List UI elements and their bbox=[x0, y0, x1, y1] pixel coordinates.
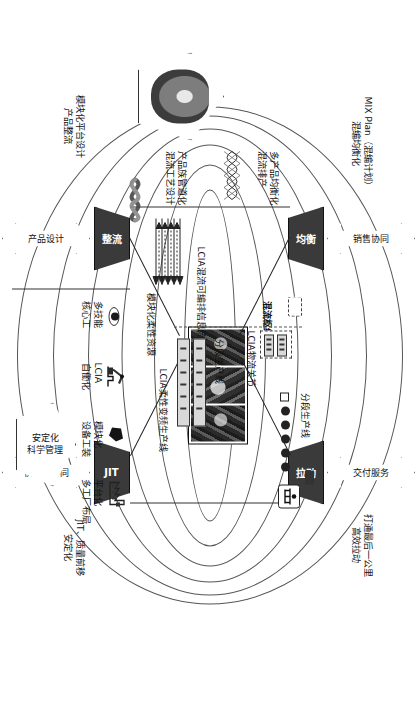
arrow-product-label: 产品设计 bbox=[28, 232, 64, 245]
joint-bar-1 bbox=[277, 334, 287, 356]
resource-item-1-line1: 多技能 bbox=[92, 300, 104, 327]
label-segmented-line-top: 分段生产线 bbox=[299, 392, 310, 437]
node-zhengliu-label: 整流 bbox=[102, 231, 122, 246]
kanban-card-icon bbox=[305, 470, 314, 484]
factory-icon bbox=[108, 480, 128, 508]
caption-mix-plan-line1: MIX Plan（混编计划） bbox=[362, 96, 374, 189]
node-jit-label: JIT bbox=[105, 466, 119, 477]
caption-jit-quality: JIT、质量前移 安定化 bbox=[62, 519, 86, 575]
caption-platform-line2: 产品整流 bbox=[62, 94, 74, 157]
caption-last-mile-line2: 高效拉动 bbox=[350, 513, 362, 576]
caption-last-mile-line1: 打通最后一公里 bbox=[362, 513, 374, 576]
rail-right bbox=[130, 502, 290, 503]
workcell-icon bbox=[278, 484, 300, 508]
lcia-robot-icon bbox=[106, 364, 126, 388]
caption-info-flow: LCIA混流可编排信息流 bbox=[195, 246, 206, 338]
segmented-line-chain-top bbox=[278, 392, 292, 482]
resource-item-4-line1: 平台化 bbox=[92, 478, 104, 523]
segmented-line-bar-2 bbox=[177, 338, 190, 426]
stability-pentagon-line1: 安定化 bbox=[31, 432, 58, 442]
caption-mix-plan-line2: 混编均衡化 bbox=[350, 96, 362, 189]
information-flow-arrows-icon bbox=[150, 214, 184, 288]
caption-mix-plan: MIX Plan（混编计划） 混编均衡化 bbox=[350, 96, 374, 189]
resource-item-3: 模块化 设备工装 bbox=[80, 420, 104, 456]
caption-platform-line1: 模块化平台设计 bbox=[74, 94, 86, 157]
workcell-glyph bbox=[279, 485, 299, 507]
resource-item-2: LCIA 自働化 bbox=[80, 362, 104, 389]
diagram-rotation-wrapper: 混流枢纽 LCIA柔性变频生产线 均衡 销售协同 MIX Plan（混编计划） … bbox=[0, 0, 420, 709]
joint-bar-2 bbox=[264, 334, 274, 356]
caption-multi-product-line2: 混流排产 bbox=[256, 150, 268, 204]
resource-item-4-line2: 多工厂布局 bbox=[80, 478, 92, 523]
label-logistics-joint: LCIA物流关节 bbox=[245, 330, 256, 386]
resource-item-4: 平台化 多工厂布局 bbox=[80, 478, 104, 523]
caption-multi-product: 多产品均衡化 混流排产 bbox=[256, 150, 280, 204]
resource-item-2-line1: LCIA bbox=[92, 362, 104, 389]
resource-item-3-line1: 模块化 bbox=[92, 420, 104, 456]
resources-header: 模块化柔性资源 bbox=[145, 292, 156, 355]
resource-divider bbox=[174, 326, 302, 327]
resource-item-3-line2: 设备工装 bbox=[80, 420, 92, 456]
mixed-sequence-helix-icon bbox=[222, 150, 242, 204]
caption-jit-quality-line1: JIT、质量前移 bbox=[74, 519, 86, 575]
stability-pentagon-line2: 科学管理 bbox=[27, 444, 63, 454]
arrow-delivery-label: 交付服务 bbox=[353, 466, 389, 479]
arrow-sales-label: 销售协同 bbox=[353, 232, 389, 245]
legend-box-icon bbox=[288, 296, 302, 316]
label-segmented-line-bottom: 分段生产线 bbox=[213, 338, 224, 383]
node-junheng-label: 均衡 bbox=[296, 231, 316, 246]
dna-strand-icon bbox=[122, 176, 148, 222]
caption-jit-quality-line2: 安定化 bbox=[62, 519, 74, 575]
lcia-line-label: LCIA柔性变频生产线 bbox=[157, 368, 168, 451]
caption-platform: 模块化平台设计 产品整流 bbox=[62, 94, 86, 157]
caption-last-mile: 打通最后一公里 高效拉动 bbox=[350, 513, 374, 576]
segmented-line-bar-1 bbox=[193, 338, 206, 426]
resource-item-1: 多技能 核心工 bbox=[80, 300, 104, 327]
resource-item-1-line2: 核心工 bbox=[80, 300, 92, 327]
rail-left bbox=[130, 206, 290, 207]
stability-pentagon-text: 安定化 科学管理 bbox=[27, 432, 63, 455]
caption-product-family: 产品族管道化 混流工艺设计 bbox=[164, 150, 188, 204]
logistics-joint-dashed-box bbox=[260, 330, 292, 358]
caption-product-family-line2: 混流工艺设计 bbox=[164, 150, 176, 204]
caption-multi-product-line1: 多产品均衡化 bbox=[268, 150, 280, 204]
caption-product-family-line1: 产品族管道化 bbox=[176, 150, 188, 204]
diagram-canvas: 混流枢纽 LCIA柔性变频生产线 均衡 销售协同 MIX Plan（混编计划） … bbox=[0, 0, 420, 709]
pentagon-photo-image bbox=[151, 69, 209, 123]
module-icon bbox=[108, 424, 124, 444]
resource-item-2-line2: 自働化 bbox=[80, 362, 92, 389]
resources-baseline bbox=[12, 288, 130, 289]
multi-skill-icon bbox=[108, 306, 122, 326]
